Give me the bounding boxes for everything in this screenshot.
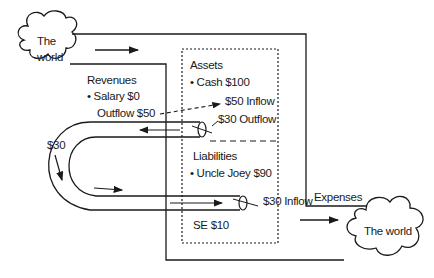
assets-inflow: $50 Inflow: [225, 96, 274, 108]
u-tube: [49, 122, 240, 210]
sink-cloud-label: The world: [364, 226, 412, 238]
loop-amount: $30: [47, 140, 65, 152]
source-cloud-label-line1: The: [37, 36, 56, 48]
liabilities-title: Liabilities: [193, 151, 237, 163]
revenues-item: • Salary $0: [87, 91, 140, 103]
expenses-title: Expenses: [314, 192, 362, 204]
equity-label: SE $10: [193, 220, 229, 232]
revenue-transfer-arrow-icon: [160, 104, 220, 114]
revenues-outflow: Outflow $50: [97, 108, 155, 120]
source-cloud-label-line2: world: [37, 52, 63, 64]
assets-item: • Cash $100: [190, 77, 250, 89]
assets-outflow: $30 Outflow: [218, 114, 276, 126]
revenues-title: Revenues: [87, 75, 136, 87]
assets-title: Assets: [190, 60, 223, 72]
money-flow-diagram: The world Revenues • Salary $0 Outflow $…: [0, 0, 434, 278]
liability-inflow: $30 Inflow: [263, 196, 312, 208]
liabilities-item: • Uncle Joey $90: [190, 168, 272, 180]
